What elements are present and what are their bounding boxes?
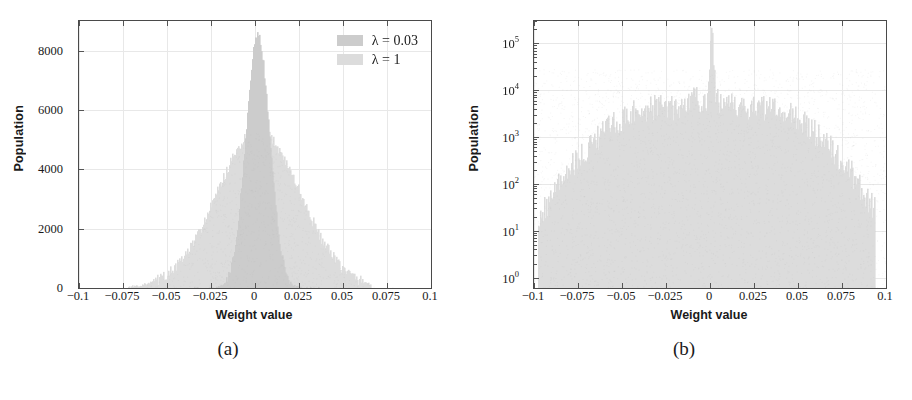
x-tick-label: 0: [251, 289, 257, 304]
y-axis-ticks-a: 02000400060008000: [0, 20, 72, 287]
x-axis-ticks-b: −0.1−0.075−0.05−0.02500.0250.050.0750.1: [533, 289, 885, 309]
x-tick-label: −0.025: [192, 289, 227, 304]
y-tick-label: 6000: [38, 103, 72, 118]
x-axis-ticks-a: −0.1−0.075−0.05−0.02500.0250.050.0750.1: [78, 289, 430, 309]
x-tick-label: −0.05: [607, 289, 636, 304]
histogram-canvas-b: [534, 21, 886, 288]
caption-b: (b): [456, 338, 912, 360]
x-tick-label: −0.1: [67, 289, 90, 304]
x-tick-label: 0.05: [786, 289, 808, 304]
x-tick-label: −0.05: [152, 289, 181, 304]
x-tick-label: −0.1: [522, 289, 545, 304]
x-tick-label: 0.075: [827, 289, 855, 304]
legend-swatch-icon: [337, 35, 363, 46]
y-axis-ticks-b: 100101102103104105: [456, 20, 528, 287]
x-tick-label: 0.1: [422, 289, 438, 304]
x-axis-label-a: Weight value: [78, 308, 430, 322]
x-tick-label: −0.075: [104, 289, 139, 304]
y-tick-label: 4000: [38, 162, 72, 177]
x-tick-label: 0: [706, 289, 712, 304]
y-tick-label: 104: [502, 82, 528, 99]
x-tick-label: 0.1: [877, 289, 893, 304]
panel-b: Population 100101102103104105 −0.1−0.075…: [456, 0, 912, 400]
x-tick-label: 0.075: [372, 289, 400, 304]
legend-item: λ = 0.03: [337, 31, 418, 50]
y-tick-label: 102: [502, 175, 528, 192]
y-tick-label: 8000: [38, 43, 72, 58]
legend-label: λ = 0.03: [372, 33, 418, 49]
legend-label: λ = 1: [372, 52, 401, 68]
plot-area-a: λ = 0.03λ = 1: [78, 20, 432, 289]
caption-a: (a): [0, 338, 456, 360]
x-tick-label: 0.025: [739, 289, 767, 304]
x-tick-label: −0.025: [647, 289, 682, 304]
panel-a: Population 02000400060008000 λ = 0.03λ =…: [0, 0, 456, 400]
x-tick-label: 0.025: [284, 289, 312, 304]
x-axis-label-b: Weight value: [533, 308, 885, 322]
y-tick-label: 100: [502, 269, 528, 286]
y-tick-label: 2000: [38, 221, 72, 236]
legend-item: λ = 1: [337, 50, 418, 69]
legend-swatch-icon: [337, 54, 363, 65]
y-tick-label: 105: [502, 35, 528, 52]
plot-area-b: [533, 20, 887, 289]
x-tick-label: −0.075: [559, 289, 594, 304]
x-tick-label: 0.05: [331, 289, 353, 304]
y-tick-label: 103: [502, 128, 528, 145]
legend-a: λ = 0.03λ = 1: [333, 28, 423, 72]
figure-container: Population 02000400060008000 λ = 0.03λ =…: [0, 0, 912, 400]
y-tick-label: 101: [502, 222, 528, 239]
